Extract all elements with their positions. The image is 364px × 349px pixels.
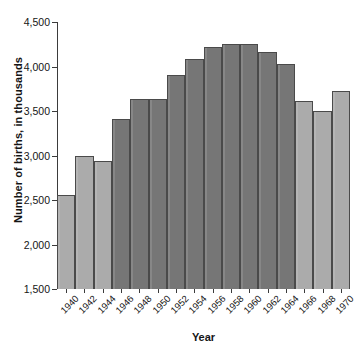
bar-1940 <box>57 195 75 289</box>
bar-1970 <box>332 91 350 289</box>
x-axis-tick-labels: 1940194219441946194819501952195419561958… <box>57 293 350 333</box>
y-axis-tick-label: 2,500 <box>24 195 50 206</box>
plot-area: 4,5004,0003,5003,0002,5002,0001,500 <box>57 22 350 289</box>
y-axis-tick-label: 3,000 <box>24 150 50 161</box>
y-axis-tick-label: 2,000 <box>24 239 50 250</box>
bar-1948 <box>130 99 148 289</box>
bar-series <box>57 22 350 289</box>
bar-1958 <box>222 44 240 289</box>
bar-1960 <box>240 44 258 289</box>
bar-1942 <box>75 156 93 289</box>
y-axis-title: Number of births, in thousands <box>12 40 24 240</box>
y-axis-tick-label: 3,500 <box>24 106 50 117</box>
x-axis-title: Year <box>57 331 350 343</box>
y-axis-tick-label: 1,500 <box>24 284 50 295</box>
bar-1968 <box>313 111 331 289</box>
bar-1956 <box>204 47 222 289</box>
bar-1952 <box>167 75 185 289</box>
bar-1966 <box>295 101 313 289</box>
bar-1964 <box>277 64 295 289</box>
y-axis-tick-label: 4,000 <box>24 61 50 72</box>
bar-1950 <box>149 99 167 289</box>
bar-chart: Number of births, in thousands 4,5004,00… <box>0 0 364 349</box>
bar-1954 <box>185 59 203 289</box>
bar-1944 <box>94 161 112 289</box>
bar-1962 <box>258 52 276 289</box>
y-axis-tick-label: 4,500 <box>24 17 50 28</box>
y-axis-tick <box>52 289 57 290</box>
bar-1946 <box>112 119 130 289</box>
